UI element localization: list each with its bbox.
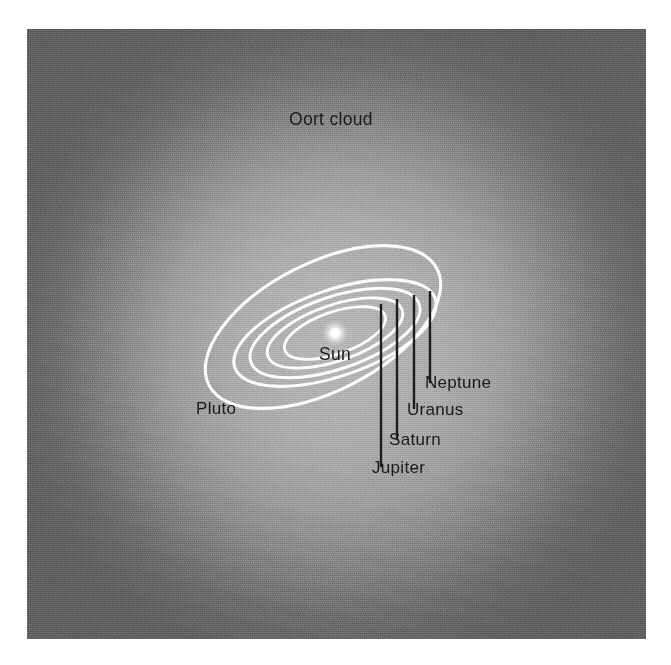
label-pluto: Pluto [196, 400, 236, 417]
label-uranus: Uranus [407, 401, 464, 418]
sun-marker [322, 320, 348, 346]
label-saturn: Saturn [389, 431, 441, 448]
label-oort-cloud: Oort cloud [289, 111, 373, 129]
label-sun: Sun [319, 346, 351, 364]
label-jupiter: Jupiter [372, 459, 425, 476]
figure-canvas: Oort cloud Sun Pluto Neptune Uranus Satu… [0, 0, 671, 665]
oort-cloud-plate: Oort cloud Sun Pluto Neptune Uranus Satu… [27, 29, 646, 639]
label-neptune: Neptune [425, 374, 491, 391]
